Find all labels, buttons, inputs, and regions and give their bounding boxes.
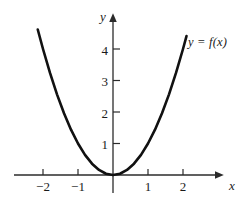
curve-equation-label: y = f(x) — [188, 36, 227, 49]
y-axis-group — [113, 21, 120, 193]
parabola-curve — [38, 29, 187, 175]
y-tick-label-3: 3 — [88, 75, 108, 88]
y-axis-label: y — [100, 10, 106, 23]
x-tick-label-pos2: 2 — [171, 180, 195, 193]
x-tick-label-neg2: −2 — [31, 180, 55, 193]
plot-canvas — [0, 0, 251, 208]
x-tick-label-neg1: −1 — [66, 180, 90, 193]
y-tick-label-1: 1 — [88, 138, 108, 151]
x-axis-label: x — [229, 179, 235, 192]
x-tick-label-pos1: 1 — [136, 180, 160, 193]
y-tick-label-2: 2 — [88, 107, 108, 120]
function-graph-figure: −2 −1 1 2 1 2 3 4 x y y = f(x) — [0, 0, 251, 208]
y-tick-label-4: 4 — [88, 44, 108, 57]
